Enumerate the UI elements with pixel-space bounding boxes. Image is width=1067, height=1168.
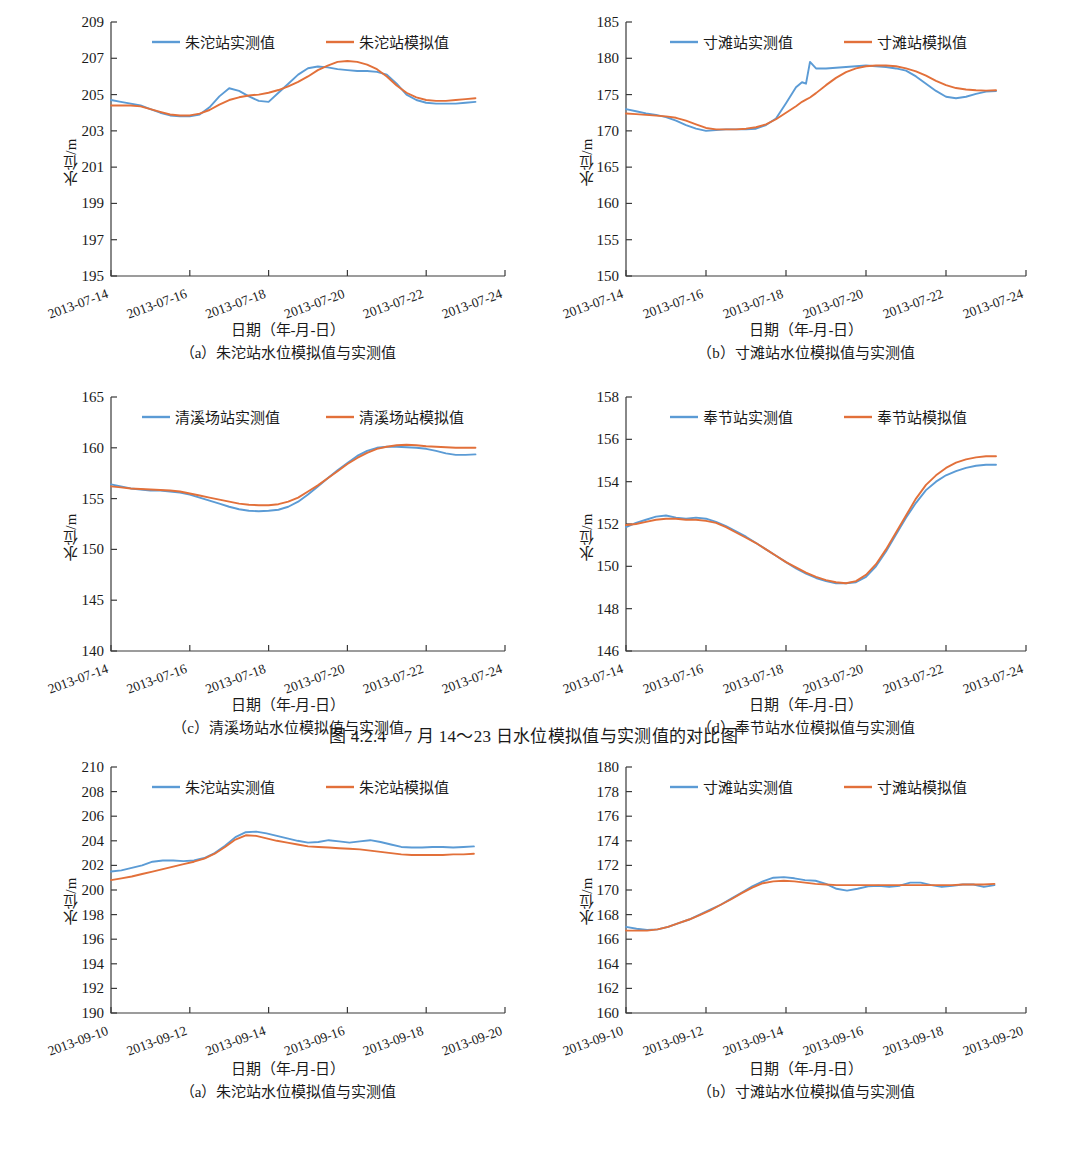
legend-label-simulated: 奉节站模拟值 xyxy=(877,409,967,426)
panel-caption: （a）朱沱站水位模拟值与实测值 xyxy=(118,341,458,362)
figure-title: 图 4.2.4 7 月 14～23 日水位模拟值与实测值的对比图 xyxy=(0,722,1067,747)
y-tick-label: 180 xyxy=(597,50,620,66)
y-tick-label: 150 xyxy=(82,541,105,557)
series-line-simulated xyxy=(111,835,474,880)
x-axis-title: 日期（年-月-日） xyxy=(676,318,936,339)
x-tick-label: 2013-07-22 xyxy=(881,661,945,697)
y-tick-label: 166 xyxy=(597,931,620,947)
y-tick-label: 165 xyxy=(82,389,105,405)
y-tick-label: 202 xyxy=(82,857,105,873)
x-tick-label: 2013-07-16 xyxy=(125,661,190,697)
x-tick-label: 2013-07-24 xyxy=(961,286,1026,322)
y-tick-label: 155 xyxy=(82,491,105,507)
y-tick-label: 190 xyxy=(82,1005,105,1021)
x-tick-label: 2013-09-10 xyxy=(46,1023,111,1059)
y-tick-label: 198 xyxy=(82,907,105,923)
x-tick-label: 2013-07-18 xyxy=(721,286,786,322)
chart-panel-d-fengjie-july: 1461481501521541561582013-07-142013-07-1… xyxy=(536,383,1061,761)
x-tick-label: 2013-07-18 xyxy=(203,661,268,697)
x-axis-title: 日期（年-月-日） xyxy=(158,318,418,339)
legend-label-simulated: 清溪场站模拟值 xyxy=(359,410,464,426)
legend-label-observed: 朱沱站实测值 xyxy=(185,35,275,51)
x-tick-label: 2013-07-18 xyxy=(203,286,268,322)
y-tick-label: 156 xyxy=(597,431,620,447)
y-axis-title: 水位/m xyxy=(576,513,597,561)
x-tick-label: 2013-09-12 xyxy=(641,1023,705,1059)
y-tick-label: 206 xyxy=(82,808,105,824)
y-tick-label: 165 xyxy=(597,159,620,175)
x-tick-label: 2013-07-16 xyxy=(641,286,706,322)
chart-panel-a-zhutuo-july: 1951971992012032052072092013-07-142013-0… xyxy=(8,8,528,386)
x-tick-label: 2013-07-20 xyxy=(801,661,866,697)
chart-panel-b-cuntan-september: 1601621641661681701721741761781802013-09… xyxy=(536,757,1061,1123)
x-tick-label: 2013-07-24 xyxy=(961,661,1026,697)
y-tick-label: 170 xyxy=(597,882,620,898)
chart-panel-a-zhutuo-september: 1901921941961982002022042062082102013-09… xyxy=(8,757,528,1123)
x-axis-title: 日期（年-月-日） xyxy=(158,693,418,714)
y-tick-label: 158 xyxy=(597,389,620,405)
y-tick-label: 180 xyxy=(597,759,620,775)
x-tick-label: 2013-07-20 xyxy=(282,286,347,322)
x-tick-label: 2013-09-18 xyxy=(361,1023,426,1059)
y-tick-label: 209 xyxy=(82,14,105,30)
legend-label-observed: 寸滩站实测值 xyxy=(703,780,793,796)
y-tick-label: 203 xyxy=(82,123,105,139)
y-tick-label: 196 xyxy=(82,931,105,947)
legend-label-observed: 朱沱站实测值 xyxy=(185,780,275,796)
series-line-observed xyxy=(111,832,474,872)
x-tick-label: 2013-07-20 xyxy=(282,661,347,697)
panel-caption: （b）寸滩站水位模拟值与实测值 xyxy=(636,1080,976,1101)
y-tick-label: 168 xyxy=(597,907,620,923)
y-tick-label: 199 xyxy=(82,195,105,211)
y-tick-label: 170 xyxy=(597,123,620,139)
x-tick-label: 2013-09-10 xyxy=(561,1023,626,1059)
y-tick-label: 150 xyxy=(597,558,620,574)
panel-caption: （a）朱沱站水位模拟值与实测值 xyxy=(118,1080,458,1101)
legend-label-simulated: 朱沱站模拟值 xyxy=(359,35,449,51)
x-tick-label: 2013-09-14 xyxy=(203,1023,268,1059)
x-tick-label: 2013-07-14 xyxy=(46,661,111,697)
y-tick-label: 210 xyxy=(82,759,105,775)
y-tick-label: 140 xyxy=(82,643,105,659)
x-tick-label: 2013-09-16 xyxy=(801,1023,866,1059)
x-tick-label: 2013-09-18 xyxy=(881,1023,946,1059)
x-tick-label: 2013-07-24 xyxy=(440,286,505,322)
x-tick-label: 2013-07-14 xyxy=(46,286,111,322)
x-tick-label: 2013-07-14 xyxy=(561,661,626,697)
x-tick-label: 2013-09-20 xyxy=(440,1023,505,1059)
y-tick-label: 208 xyxy=(82,784,105,800)
y-axis-title: 水位/m xyxy=(60,877,81,925)
y-tick-label: 162 xyxy=(597,980,620,996)
y-tick-label: 204 xyxy=(82,833,105,849)
y-tick-label: 172 xyxy=(597,857,620,873)
x-tick-label: 2013-07-22 xyxy=(361,286,425,322)
y-tick-label: 195 xyxy=(82,268,105,284)
x-tick-label: 2013-07-20 xyxy=(801,286,866,322)
y-tick-label: 197 xyxy=(82,232,105,248)
x-tick-label: 2013-07-24 xyxy=(440,661,505,697)
y-tick-label: 150 xyxy=(597,268,620,284)
y-axis-title: 水位/m xyxy=(60,138,81,186)
series-line-simulated xyxy=(626,881,994,931)
y-tick-label: 174 xyxy=(597,833,620,849)
x-tick-label: 2013-09-20 xyxy=(961,1023,1026,1059)
x-tick-label: 2013-09-14 xyxy=(721,1023,786,1059)
series-line-simulated xyxy=(626,456,996,583)
y-tick-label: 176 xyxy=(597,808,620,824)
y-axis-title: 水位/m xyxy=(576,138,597,186)
y-tick-label: 160 xyxy=(82,440,105,456)
y-tick-label: 148 xyxy=(597,601,620,617)
legend-label-simulated: 寸滩站模拟值 xyxy=(877,35,967,51)
x-tick-label: 2013-09-16 xyxy=(282,1023,347,1059)
legend-label-observed: 奉节站实测值 xyxy=(703,409,793,426)
series-line-observed xyxy=(626,465,996,584)
x-axis-title: 日期（年-月-日） xyxy=(676,1057,936,1078)
y-tick-label: 185 xyxy=(597,14,620,30)
y-tick-label: 201 xyxy=(82,159,105,175)
y-tick-label: 178 xyxy=(597,784,620,800)
y-tick-label: 160 xyxy=(597,1005,620,1021)
x-tick-label: 2013-09-12 xyxy=(125,1023,189,1059)
y-tick-label: 192 xyxy=(82,980,105,996)
chart-panel-c-qingxichang-july: 1401451501551601652013-07-142013-07-1620… xyxy=(8,383,528,761)
x-axis-title: 日期（年-月-日） xyxy=(158,1057,418,1078)
